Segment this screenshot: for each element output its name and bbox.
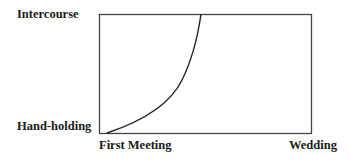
- x-label-left: First Meeting: [99, 138, 172, 153]
- progression-curve: [107, 14, 201, 133]
- y-label-bottom: Hand-holding: [17, 119, 91, 134]
- x-label-right: Wedding: [289, 138, 337, 153]
- y-label-top: Intercourse: [17, 7, 79, 22]
- plot-frame: [100, 15, 312, 134]
